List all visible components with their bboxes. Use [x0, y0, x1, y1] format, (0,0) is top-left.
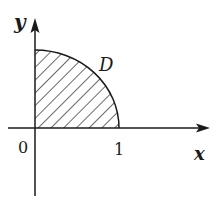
diagram-svg — [0, 0, 216, 217]
origin-label: 0 — [18, 140, 28, 156]
diagram-canvas: y x D 0 1 — [0, 0, 216, 217]
x-tick-1-label: 1 — [114, 142, 124, 158]
x-axis-label: x — [194, 145, 205, 163]
y-axis-label: y — [14, 12, 26, 32]
region-d-label: D — [99, 56, 113, 74]
